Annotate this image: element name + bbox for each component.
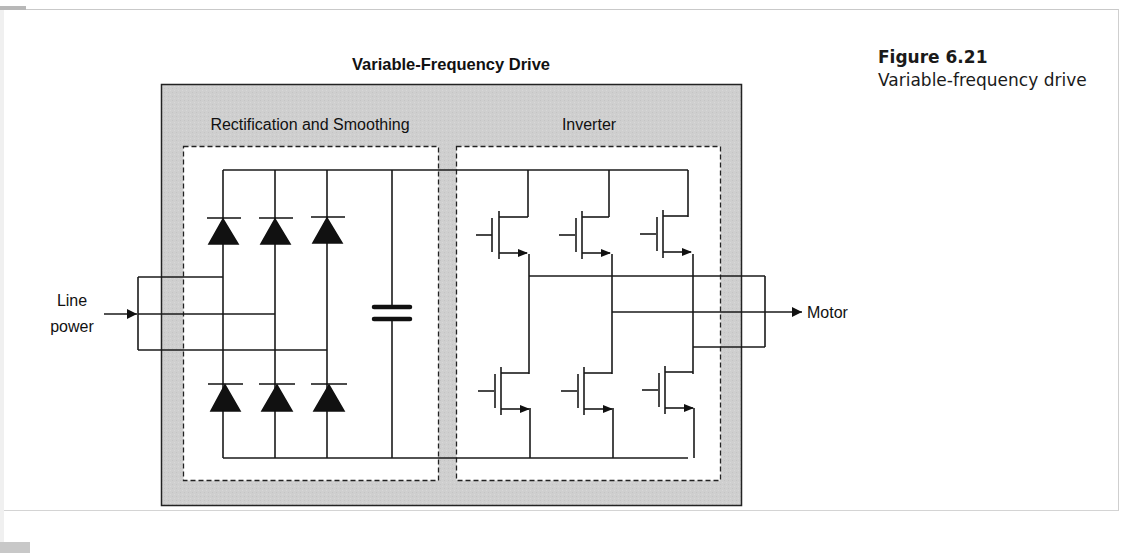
figure-number: Figure 6.21 <box>878 46 1108 69</box>
inverter-section <box>457 147 721 481</box>
input-label-power: power <box>50 318 94 335</box>
figure-caption-text: Variable-frequency drive <box>878 69 1108 92</box>
rectification-label: Rectification and Smoothing <box>210 116 409 133</box>
inverter-label: Inverter <box>562 116 617 133</box>
input-label-line: Line <box>57 292 87 309</box>
output-label-motor: Motor <box>807 304 849 321</box>
diagram-title: Variable-Frequency Drive <box>352 55 550 73</box>
figure-caption: Figure 6.21 Variable-frequency drive <box>878 46 1108 92</box>
